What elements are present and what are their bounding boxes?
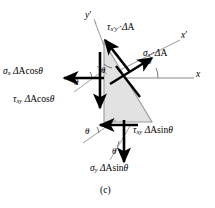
tau-xy-sin-label: τxy ΔAsinθ bbox=[133, 126, 173, 136]
theta-symbol: θ bbox=[168, 125, 173, 135]
x-prime-axis-label: x′ bbox=[181, 31, 187, 41]
tau-xy-cos-label: τxy ΔAcosθ bbox=[13, 95, 54, 105]
theta-symbol: θ bbox=[124, 163, 129, 173]
theta-bottom-right-label: θ bbox=[112, 147, 116, 156]
theta-left-upper-label: θ bbox=[74, 78, 78, 87]
theta-symbol: θ bbox=[50, 94, 55, 104]
area-symbol: A bbox=[128, 22, 135, 32]
sigma-y-sin-label: σy ΔAsinθ bbox=[90, 164, 128, 174]
area-symbol: A bbox=[160, 48, 167, 58]
y-prime-axis-label-prime: ′ bbox=[89, 10, 91, 20]
tau-xprime-yprime-label: τx′y′·ΔA bbox=[107, 23, 134, 33]
sigma-xprime-label: σx′·ΔA bbox=[143, 49, 167, 59]
x-axis-label: x bbox=[196, 70, 200, 80]
theta-symbol: θ bbox=[38, 66, 43, 76]
theta-bottom-left-label: θ bbox=[85, 127, 89, 136]
theta-arc-right-xprime bbox=[156, 68, 158, 78]
theta-wedge-interior-label: θ bbox=[101, 66, 105, 75]
sigma-y-subscript: y bbox=[95, 166, 98, 173]
tau-xprime-yprime-subscript: x′y′ bbox=[110, 25, 119, 32]
figure-caption: (c) bbox=[100, 186, 111, 196]
tau-xy-subscript: xy bbox=[136, 128, 142, 135]
x-prime-axis-label-prime: ′ bbox=[185, 30, 187, 40]
sin-text: sin bbox=[112, 163, 123, 173]
cos-text: cos bbox=[37, 94, 50, 104]
x-axis-label-text: x bbox=[196, 69, 200, 79]
tau-xy-subscript: xy bbox=[16, 97, 22, 104]
sigma-x-subscript: x bbox=[8, 69, 11, 76]
y-prime-axis-label: y′ bbox=[85, 11, 91, 21]
sigma-x-cos-label: σx ΔAcosθ bbox=[3, 67, 43, 77]
cos-text: cos bbox=[25, 66, 38, 76]
stress-wedge-figure: y′ x′ x θ θ θ θ θ τx′y′·ΔA σx′·ΔA σx ΔAc… bbox=[0, 0, 215, 208]
sin-text: sin bbox=[157, 125, 168, 135]
